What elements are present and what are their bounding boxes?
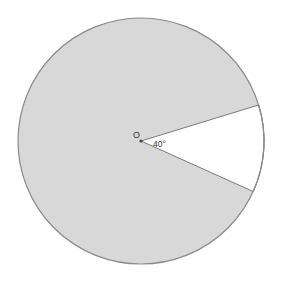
center-label: O: [133, 130, 140, 140]
circle-diagram: O 40°: [0, 0, 282, 286]
diagram-canvas: O 40°: [0, 0, 282, 286]
angle-label: 40°: [153, 139, 166, 149]
